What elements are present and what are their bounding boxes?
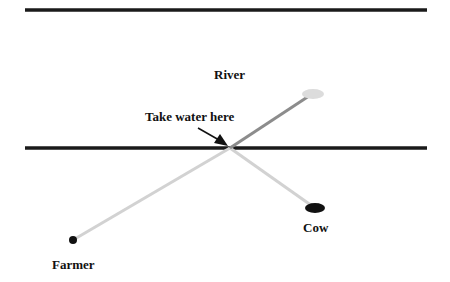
take-water-label: Take water here <box>145 110 234 123</box>
arrow-icon <box>198 128 228 146</box>
water-point-marker <box>302 89 324 99</box>
river-crossing-diagram <box>0 0 450 282</box>
bank-to-cow-path <box>230 148 315 208</box>
cow-label: Cow <box>303 221 328 234</box>
farmer-marker <box>69 236 77 244</box>
farmer-label: Farmer <box>52 258 95 271</box>
river-label: River <box>214 68 245 81</box>
bank-to-water-path <box>230 96 309 148</box>
farmer-to-bank-path <box>73 148 230 240</box>
cow-marker <box>305 203 325 213</box>
